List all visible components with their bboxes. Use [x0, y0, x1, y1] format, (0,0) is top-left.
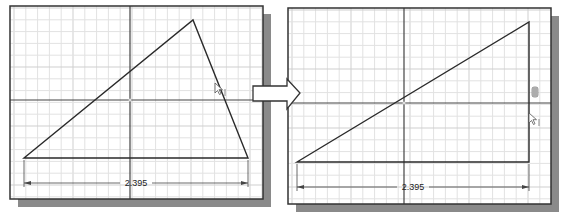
sketch-comparison-diagram: 2.395 2.395 — [0, 0, 569, 223]
vertical-constraint-icon[interactable] — [532, 87, 538, 97]
origin-point — [129, 99, 132, 102]
panel-before-drag: 2.395 — [10, 6, 271, 207]
panel-after-drag: 2.395 — [288, 8, 559, 212]
dimension-value[interactable]: 2.395 — [125, 178, 148, 188]
dimension-value[interactable]: 2.395 — [402, 182, 425, 192]
origin-point — [403, 102, 406, 105]
